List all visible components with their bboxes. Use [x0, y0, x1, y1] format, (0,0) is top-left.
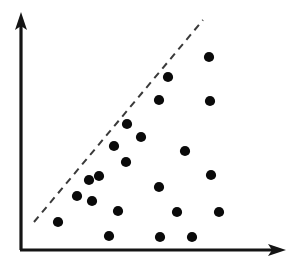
data-point	[214, 207, 224, 217]
data-point	[53, 217, 63, 227]
data-point	[172, 207, 182, 217]
data-point	[163, 72, 173, 82]
data-point	[206, 170, 216, 180]
y-axis	[15, 12, 27, 250]
data-point	[155, 232, 165, 242]
data-point	[187, 232, 197, 242]
data-point	[204, 52, 214, 62]
data-point	[84, 175, 94, 185]
data-point	[154, 182, 164, 192]
data-point	[72, 191, 82, 201]
data-point	[121, 157, 131, 167]
data-point	[154, 95, 164, 105]
data-point	[87, 196, 97, 206]
data-point	[180, 146, 190, 156]
data-point	[109, 141, 119, 151]
data-points-group	[53, 52, 224, 242]
data-point	[94, 171, 104, 181]
plot-canvas	[0, 0, 297, 272]
data-point	[113, 206, 123, 216]
data-point	[136, 132, 146, 142]
dashed-decision-boundary-line	[34, 20, 203, 222]
data-point	[122, 119, 132, 129]
x-axis	[20, 244, 286, 256]
data-point	[205, 96, 215, 106]
data-point	[104, 231, 114, 241]
scatter-plot-figure	[0, 0, 297, 272]
